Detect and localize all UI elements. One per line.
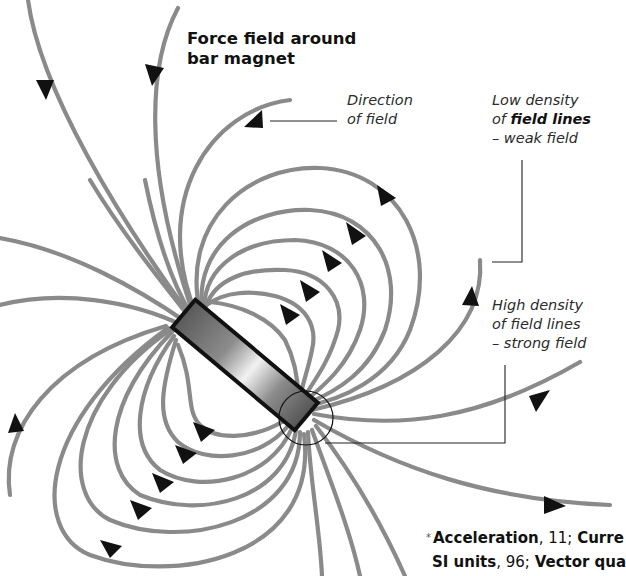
arrow-icon [193, 422, 215, 442]
arrow-icon [529, 390, 550, 412]
label-direction-of-field: Direction of field [347, 91, 413, 129]
field-line-open-top-1 [28, 0, 192, 318]
arrow-icon [36, 80, 54, 100]
link-vector-quantity: Vector qua [535, 553, 626, 571]
link-acceleration: Acceleration [433, 529, 539, 547]
link-si-units: SI units [432, 553, 496, 571]
index-footer: *Acceleration, 11; Curre SI units, 96; V… [426, 526, 626, 574]
diagram-title: Force field around bar magnet [187, 29, 356, 69]
title-line-2: bar magnet [187, 49, 356, 69]
leader-low-density [492, 160, 522, 262]
arrow-icon [130, 500, 152, 520]
arrow-icon [145, 64, 164, 86]
label-low-density: Low density of field lines – weak field [492, 91, 591, 148]
title-line-1: Force field around [187, 29, 356, 49]
arrowheads [8, 64, 566, 558]
link-current: Curre [577, 529, 624, 547]
arrow-icon [300, 280, 320, 302]
arrow-icon [100, 540, 122, 558]
label-high-density: High density of field lines – strong fie… [492, 296, 586, 353]
